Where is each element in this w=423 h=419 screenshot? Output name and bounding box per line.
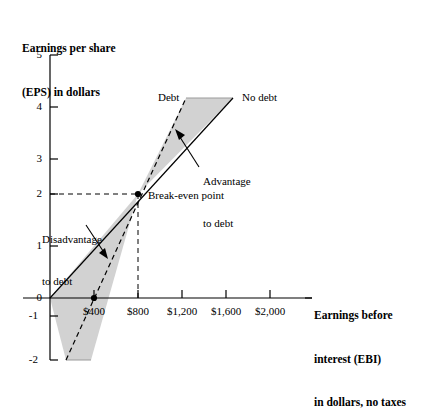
y-tick-label-minus-2: -2 — [16, 353, 38, 365]
y-tick-label-0: 0 — [20, 291, 42, 303]
chart-container: Earnings per share (EPS) in dollars Earn… — [0, 0, 423, 419]
y-tick-label-1: 1 — [20, 239, 42, 251]
x-tick-label-2000: $2,000 — [247, 305, 293, 317]
break-even-point-label: Break-even point — [148, 188, 224, 202]
y-tick-label-minus-1: -1 — [16, 309, 38, 321]
y-tick-label-2: 2 — [20, 187, 42, 199]
x-axis-title-line-2: interest (EBI) — [314, 352, 406, 367]
y-tick-label-3: 3 — [20, 152, 42, 164]
advantage-to-debt-label-line-1: Advantage — [203, 174, 251, 188]
y-axis-title-line-2: (EPS) in dollars — [22, 85, 116, 100]
debt-series-label: Debt — [158, 90, 179, 104]
y-tick-label-5: 5 — [20, 48, 42, 60]
x-tick-label-800: $800 — [118, 305, 158, 317]
x-tick-label-1600: $1,600 — [203, 305, 249, 317]
advantage-to-debt-label-line-2: to debt — [203, 216, 251, 230]
advantage-to-debt-label: Advantage to debt — [203, 146, 251, 258]
x-tick-label-1200: $1,200 — [159, 305, 205, 317]
disadvantage-to-debt-label: Disadvantage to debt — [42, 204, 102, 316]
x-axis-title-line-3: in dollars, no taxes — [314, 395, 406, 410]
break-even-point-marker — [135, 191, 141, 197]
disadvantage-to-debt-label-line-2: to debt — [42, 274, 102, 288]
no-debt-series-label: No debt — [242, 90, 277, 104]
disadvantage-to-debt-label-line-1: Disadvantage — [42, 232, 102, 246]
x-axis-ticks — [94, 290, 270, 298]
x-axis-title: Earnings before interest (EBI) in dollar… — [314, 279, 406, 419]
y-tick-label-4: 4 — [20, 100, 42, 112]
x-axis-title-line-1: Earnings before — [314, 308, 406, 323]
